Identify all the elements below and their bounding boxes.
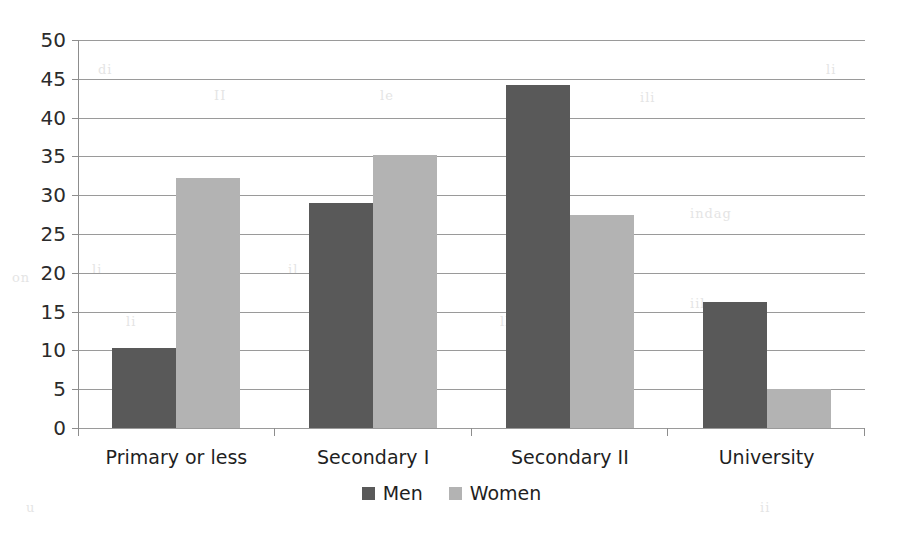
y-axis-tick-mark <box>72 428 79 429</box>
y-axis-tick-label: 15 <box>4 300 66 324</box>
y-axis-tick-label: 25 <box>4 222 66 246</box>
y-axis-tick-mark <box>72 118 79 119</box>
legend-item-women[interactable]: Women <box>449 482 542 504</box>
x-axis-separator <box>78 428 79 436</box>
y-axis-tick-label: 0 <box>4 416 66 440</box>
x-axis-separator <box>864 428 865 436</box>
x-axis-label-secondary-ii: Secondary II <box>511 446 629 468</box>
gridline <box>78 79 865 80</box>
y-axis-tick-label: 50 <box>4 28 66 52</box>
x-axis-categories: Primary or lessSecondary ISecondary IIUn… <box>78 446 865 476</box>
y-axis-tick-label: 45 <box>4 67 66 91</box>
y-axis-tick-label: 35 <box>4 144 66 168</box>
y-axis-tick-mark <box>72 389 79 390</box>
bar-men-secondary-i <box>309 203 373 428</box>
legend-label: Men <box>383 482 423 504</box>
y-axis-tick-mark <box>72 79 79 80</box>
legend-swatch-women-icon <box>449 487 462 500</box>
plot-area <box>78 40 865 428</box>
x-axis-label-primary-or-less: Primary or less <box>106 446 248 468</box>
y-axis-tick-mark <box>72 273 79 274</box>
y-axis-tick-label: 10 <box>4 338 66 362</box>
bar-men-university <box>703 302 767 428</box>
gridline <box>78 40 865 41</box>
x-axis-separator <box>471 428 472 436</box>
y-axis-tick-label: 20 <box>4 261 66 285</box>
legend-label: Women <box>470 482 542 504</box>
x-axis-separator <box>274 428 275 436</box>
y-axis-tick-mark <box>72 195 79 196</box>
y-axis-tick-label: 30 <box>4 183 66 207</box>
bar-women-secondary-ii <box>570 215 634 428</box>
y-axis-tick-mark <box>72 234 79 235</box>
y-axis-tick-mark <box>72 350 79 351</box>
y-axis-tick-mark <box>72 156 79 157</box>
y-axis-tick-mark <box>72 312 79 313</box>
x-axis-label-secondary-i: Secondary I <box>317 446 429 468</box>
bar-men-secondary-ii <box>506 85 570 428</box>
y-axis-tick-label: 40 <box>4 106 66 130</box>
bar-chart: 50454035302520151050 Primary or lessSeco… <box>0 0 903 535</box>
gridline <box>78 156 865 157</box>
legend-item-men[interactable]: Men <box>362 482 423 504</box>
y-axis-tick-mark <box>72 40 79 41</box>
chart-legend: MenWomen <box>0 482 903 504</box>
bar-men-primary-or-less <box>112 348 176 428</box>
gridline <box>78 428 865 429</box>
x-axis-label-university: University <box>719 446 815 468</box>
bar-women-primary-or-less <box>176 178 240 428</box>
gridline <box>78 118 865 119</box>
y-axis: 50454035302520151050 <box>0 40 66 428</box>
y-axis-tick-label: 5 <box>4 377 66 401</box>
x-axis-separator <box>667 428 668 436</box>
bar-women-secondary-i <box>373 155 437 428</box>
bar-women-university <box>767 389 831 428</box>
legend-swatch-men-icon <box>362 487 375 500</box>
